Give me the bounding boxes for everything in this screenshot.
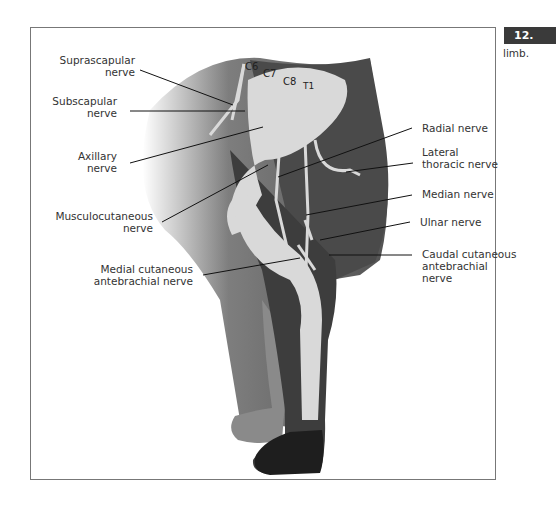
label-musculocutaneous-nerve: Musculocutaneous nerve [55, 210, 153, 234]
label-ulnar-nerve: Ulnar nerve [420, 216, 481, 228]
label-median-nerve: Median nerve [422, 188, 494, 200]
caption-fragment: limb. [503, 47, 529, 59]
label-radial-nerve: Radial nerve [422, 122, 488, 134]
label-suprascapular-nerve: Suprascapular nerve [60, 54, 135, 78]
label-medial-cutaneous-antebrachial-nerve: Medial cutaneous antebrachial nerve [94, 263, 193, 287]
root-label-t1: T1 [303, 81, 314, 91]
label-axillary-nerve: Axillary nerve [78, 150, 117, 174]
label-caudal-cutaneous-antebrachial-nerve: Caudal cutaneous antebrachial nerve [422, 248, 516, 284]
root-label-c8: C8 [283, 76, 296, 87]
label-lateral-thoracic-nerve: Lateral thoracic nerve [422, 146, 498, 170]
figure-number-badge: 12. [504, 27, 556, 44]
label-subscapular-nerve: Subscapular nerve [52, 95, 117, 119]
root-label-c6: C6 [245, 61, 258, 72]
root-label-c7: C7 [263, 68, 276, 79]
